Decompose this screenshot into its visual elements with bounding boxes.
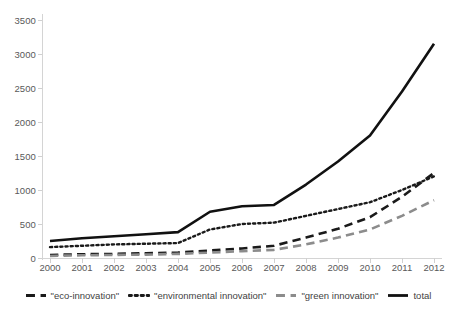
x-tick-label: 2011 (392, 262, 412, 273)
y-tick-label: 3500 (14, 15, 36, 26)
legend-label: "eco-innovation" (51, 290, 120, 301)
x-tick-label: 2005 (199, 262, 220, 273)
series-line (50, 44, 434, 241)
x-tick-label: 2006 (231, 262, 252, 273)
y-tick-mark (38, 156, 42, 157)
y-tick-mark (38, 88, 42, 89)
x-tick-label: 2008 (295, 262, 316, 273)
legend-item[interactable]: "green innovation" (275, 290, 378, 301)
x-tick-label: 2012 (423, 262, 444, 273)
x-tick-label: 2003 (135, 262, 156, 273)
series-line (50, 173, 434, 255)
legend-item[interactable]: total (387, 290, 431, 301)
y-tick-mark (38, 224, 42, 225)
x-tick-label: 2009 (327, 262, 348, 273)
x-tick-label: 2002 (103, 262, 124, 273)
y-tick-label: 500 (20, 219, 36, 230)
x-tick-label: 2000 (39, 262, 60, 273)
y-axis-labels: 0500100015002000250030003500 (0, 0, 42, 270)
line-chart: 0500100015002000250030003500 20002001200… (0, 0, 456, 309)
legend-swatch-icon (128, 291, 150, 300)
legend-swatch-icon (387, 291, 409, 300)
y-tick-label: 3000 (14, 49, 36, 60)
x-axis-labels: 2000200120022003200420052006200720082009… (42, 262, 442, 278)
y-tick-mark (38, 122, 42, 123)
y-tick-mark (38, 20, 42, 21)
chart-legend: "eco-innovation""environmental innovatio… (0, 284, 456, 306)
legend-swatch-icon (275, 291, 297, 300)
x-tick-label: 2004 (167, 262, 188, 273)
legend-label: "environmental innovation" (154, 290, 266, 301)
x-tick-label: 2001 (71, 262, 92, 273)
legend-item[interactable]: "eco-innovation" (25, 290, 120, 301)
y-tick-label: 1000 (14, 185, 36, 196)
y-tick-mark (38, 190, 42, 191)
y-tick-mark (38, 258, 42, 259)
x-tick-label: 2010 (359, 262, 380, 273)
legend-label: "green innovation" (301, 290, 378, 301)
legend-item[interactable]: "environmental innovation" (128, 290, 266, 301)
y-tick-label: 0 (31, 253, 36, 264)
x-tick-label: 2007 (263, 262, 284, 273)
y-tick-label: 1500 (14, 151, 36, 162)
y-tick-mark (38, 54, 42, 55)
legend-swatch-icon (25, 291, 47, 300)
y-tick-label: 2000 (14, 117, 36, 128)
plot-area (42, 14, 442, 260)
y-tick-label: 2500 (14, 83, 36, 94)
legend-label: total (413, 290, 431, 301)
series-layer (42, 14, 442, 260)
